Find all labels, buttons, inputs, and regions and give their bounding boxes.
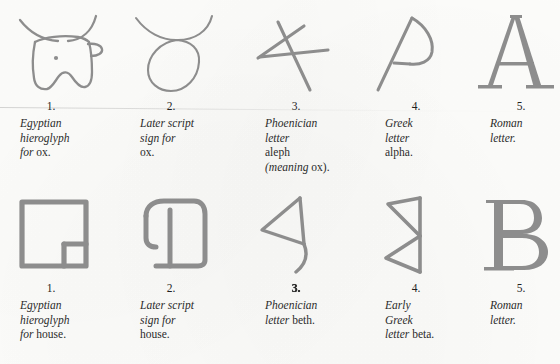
phoenician-letter-beth-icon [248,182,360,282]
caption-number: 2. [140,100,202,113]
cell-roman-b [470,182,560,282]
row-house-to-b: 1. Egyptian hieroglyph for house. 2. Lat… [0,182,560,364]
caption-text: Roman letter. [490,116,560,145]
cell-egyptian-ox [0,0,112,100]
caption-phoenician-aleph: 3. Phoenician letter aleph (meaning ox). [265,100,385,174]
early-greek-letter-beta-icon [366,182,478,282]
caption-line-italic: Egyptian [20,117,62,129]
caption-line-italic: letter [265,132,289,144]
roman-letter-b-icon [470,182,560,282]
caption-line-roman: ox. [140,146,154,158]
roman-letter-a-icon [470,0,560,100]
caption-line-italic: letter [385,132,409,144]
glyph-strip-top [0,0,560,100]
cell-greek-alpha [366,0,478,100]
caption-number: 1. [20,100,82,113]
caption-text: Phoenician letter beth. [265,298,385,327]
caption-line-italic: Later script [140,117,194,129]
caption-line-italic: letter. [490,132,516,144]
egyptian-ox-head-hieroglyph-icon [0,0,112,100]
caption-line-roman: house. [33,328,66,340]
caption-line-italic: Early [385,299,411,311]
caption-line-italic: Roman [490,299,523,311]
caption-text: Egyptian hieroglyph for house. [20,298,140,342]
caption-line-italic: hieroglyph [20,314,69,326]
egyptian-house-hieroglyph-icon [0,182,112,282]
caption-greek-alpha: 4. Greek letter alpha. [385,100,505,160]
caption-line-italic: Phoenician [265,299,317,311]
figure-page: 1. Egyptian hieroglyph for ox. 2. Later … [0,0,560,364]
caption-roman-a: 5. Roman letter. [490,100,560,145]
caption-number: 2. [140,282,202,295]
caption-line-italic: Greek [385,314,413,326]
caption-line-italic: hieroglyph [20,132,69,144]
caption-line-italic: letter. [490,314,516,326]
later-script-house-sign-icon [120,182,232,282]
cell-phoenician-beth [248,182,360,282]
caption-line-italic: sign for [140,314,175,326]
caption-line-roman: house. [140,328,170,340]
caption-later-script-ox: 2. Later script sign for ox. [140,100,260,160]
cell-egyptian-house [0,182,112,282]
caption-line-italic: sign for [140,132,175,144]
captions-top: 1. Egyptian hieroglyph for ox. 2. Later … [0,100,560,182]
phoenician-letter-aleph-icon [248,0,360,100]
caption-number: 5. [490,100,552,113]
caption-line-italic: Greek [385,117,413,129]
caption-egyptian-house: 1. Egyptian hieroglyph for house. [20,282,140,342]
caption-number: 5. [490,282,552,295]
greek-letter-alpha-icon [366,0,478,100]
cell-early-greek-beta [366,182,478,282]
caption-text: Early Greek letter beta. [385,298,505,342]
captions-bottom: 1. Egyptian hieroglyph for house. 2. Lat… [0,282,560,364]
caption-line-roman: ox). [308,161,329,173]
caption-text: Phoenician letter aleph (meaning ox). [265,116,385,174]
caption-egyptian-ox: 1. Egyptian hieroglyph for ox. [20,100,140,160]
caption-line-italic: for [20,146,33,158]
caption-number: 1. [20,282,82,295]
caption-text: Later script sign for house. [140,298,260,342]
caption-text: Greek letter alpha. [385,116,505,160]
caption-number: 3. [265,282,327,295]
caption-early-greek-beta: 4. Early Greek letter beta. [385,282,505,342]
later-script-ox-sign-icon [120,0,232,100]
caption-line-italic: Later script [140,299,194,311]
caption-later-script-house: 2. Later script sign for house. [140,282,260,342]
row-ox-to-a: 1. Egyptian hieroglyph for ox. 2. Later … [0,0,560,182]
caption-line-italic: Roman [490,117,523,129]
cell-later-script-house [120,182,232,282]
caption-line-roman: alpha. [385,146,413,158]
caption-number: 4. [385,100,447,113]
caption-line-italic: for [20,328,33,340]
cell-roman-a [470,0,560,100]
caption-line-roman: beta. [409,328,434,340]
caption-line-italic: (meaning [265,161,308,173]
caption-roman-b: 5. Roman letter. [490,282,560,327]
cell-phoenician-aleph [248,0,360,100]
caption-number: 3. [265,100,327,113]
caption-line-italic: Egyptian [20,299,62,311]
caption-line-italic: letter [265,314,289,326]
caption-line-roman: ox. [33,146,50,158]
caption-text: Later script sign for ox. [140,116,260,160]
caption-phoenician-beth: 3. Phoenician letter beth. [265,282,385,327]
glyph-strip-bottom [0,182,560,282]
caption-line-roman: beth. [289,314,315,326]
caption-text: Roman letter. [490,298,560,327]
caption-text: Egyptian hieroglyph for ox. [20,116,140,160]
cell-later-script-ox [120,0,232,100]
caption-number: 4. [385,282,447,295]
caption-line-italic: letter [385,328,409,340]
caption-line-roman: aleph [265,146,290,158]
caption-line-italic: Phoenician [265,117,317,129]
